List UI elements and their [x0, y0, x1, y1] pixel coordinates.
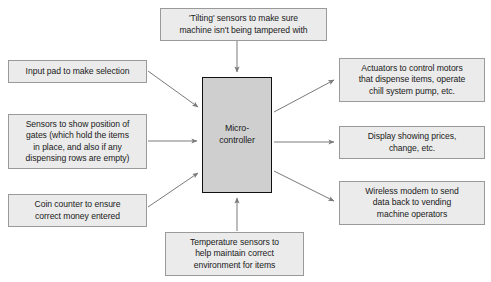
node-microcontroller-label: Micro- controller: [203, 123, 271, 146]
node-coin-counter-label: Coin counter to ensure correct money ent…: [9, 199, 146, 222]
node-coin-counter: Coin counter to ensure correct money ent…: [8, 194, 147, 227]
node-actuators-label: Actuators to control motors that dispens…: [340, 63, 484, 97]
node-actuators: Actuators to control motors that dispens…: [339, 58, 485, 102]
node-microcontroller: Micro- controller: [202, 77, 272, 193]
node-display-label: Display showing prices, change, etc.: [340, 131, 484, 154]
node-wireless-modem: Wireless modem to send data back to vend…: [339, 181, 485, 225]
node-input-pad-label: Input pad to make selection: [9, 66, 146, 77]
node-gate-sensors-label: Sensors to show position of gates (which…: [9, 119, 146, 165]
connector-wireless: [274, 171, 334, 201]
node-wireless-modem-label: Wireless modem to send data back to vend…: [340, 186, 484, 220]
diagram-canvas: 'Tilting' sensors to make sure machine i…: [0, 0, 491, 282]
node-temperature-sensors-label: Temperature sensors to help maintain cor…: [166, 237, 303, 271]
connector-input-pad: [148, 71, 198, 107]
connector-actuators: [274, 80, 334, 112]
node-gate-sensors: Sensors to show position of gates (which…: [8, 114, 147, 169]
node-tilting-sensors: 'Tilting' sensors to make sure machine i…: [160, 8, 327, 41]
node-display: Display showing prices, change, etc.: [339, 126, 485, 159]
node-temperature-sensors: Temperature sensors to help maintain cor…: [165, 232, 304, 276]
node-input-pad: Input pad to make selection: [8, 60, 147, 83]
connector-coin-counter: [148, 173, 198, 207]
node-tilting-sensors-label: 'Tilting' sensors to make sure machine i…: [161, 13, 326, 36]
